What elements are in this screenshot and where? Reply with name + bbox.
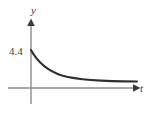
- t-axis-label: t: [140, 83, 143, 94]
- y-intercept-tick-label: 4.4: [9, 46, 23, 57]
- plot-canvas: [0, 0, 152, 118]
- decay-curve: [31, 50, 137, 82]
- exponential-decay-figure: y t 4.4: [0, 0, 152, 118]
- y-axis-label: y: [31, 5, 36, 16]
- y-axis-arrowhead: [27, 19, 35, 27]
